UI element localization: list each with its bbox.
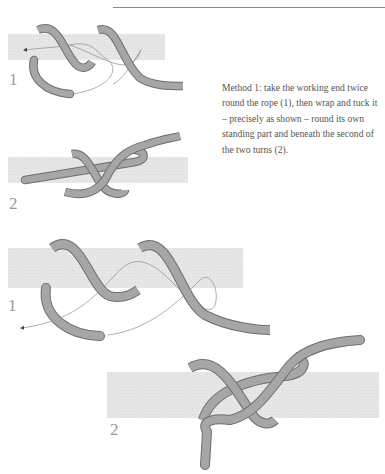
small-step-1-figure (8, 28, 183, 94)
method-caption: Method 1: take the working end twice rou… (222, 80, 382, 157)
step-label: 2 (110, 420, 119, 440)
step-label: 1 (9, 70, 18, 90)
rope-segment (33, 60, 70, 94)
standing-rope-bar (8, 34, 165, 60)
step-label: 1 (8, 296, 17, 316)
large-step-1-figure (8, 244, 270, 336)
knot-illustrations (0, 0, 385, 474)
small-step-2-figure (8, 136, 188, 194)
large-step-2-figure (107, 340, 379, 465)
step-label: 2 (9, 194, 18, 214)
standing-rope-bar (8, 248, 243, 288)
